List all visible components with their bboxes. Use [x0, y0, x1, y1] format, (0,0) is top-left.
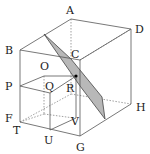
label-b: B [5, 44, 13, 57]
label-f: F [5, 112, 13, 125]
label-d: D [135, 23, 144, 36]
cube-diagram: A B C D O P Q R H F V T U G [0, 0, 150, 154]
label-t: T [13, 124, 21, 137]
label-q: Q [45, 80, 54, 93]
label-c: C [71, 48, 79, 61]
label-a: A [65, 4, 75, 17]
label-o: O [40, 60, 49, 73]
label-h: H [136, 101, 146, 114]
label-p: P [5, 80, 13, 93]
label-u: U [44, 134, 53, 147]
label-r: R [66, 82, 75, 95]
point-r-dot [74, 74, 77, 77]
label-g: G [76, 141, 85, 154]
label-v: V [70, 115, 80, 128]
